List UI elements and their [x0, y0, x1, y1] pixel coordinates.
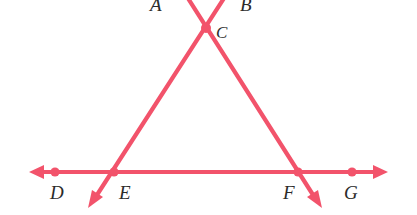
point-label-c: C [216, 24, 227, 41]
point-label-b: B [240, 0, 252, 14]
point-label-d: D [50, 183, 64, 202]
point-dot-d [50, 167, 59, 176]
horizontal-line-DG [29, 165, 388, 179]
point-label-a: A [150, 0, 162, 14]
arrowhead-left [29, 165, 44, 179]
point-dot-g [347, 167, 356, 176]
point-label-f: F [283, 183, 295, 202]
point-dot-c [201, 23, 211, 33]
point-label-g: G [344, 183, 358, 202]
geometry-figure: A B C D E F G [0, 0, 417, 215]
point-dot-f [293, 167, 302, 176]
point-dot-e [109, 167, 118, 176]
arrowhead-right [373, 165, 388, 179]
point-label-e: E [119, 183, 131, 202]
